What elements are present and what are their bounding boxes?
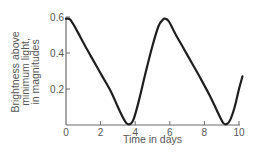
y-tick-label: 0.2 <box>50 84 64 95</box>
ticks: 02468100.20.40.6 <box>50 12 245 139</box>
y-axis-label-line: in magnitudes <box>29 39 41 104</box>
axes <box>66 17 240 125</box>
x-tick-label: 2 <box>98 127 104 138</box>
y-tick-label: 0.6 <box>50 12 64 23</box>
y-tick-label: 0.4 <box>50 48 64 59</box>
y-axis-label: Brightness aboveminimum light,in magnitu… <box>9 31 41 112</box>
x-axis-label: Time in days <box>123 133 182 145</box>
x-tick-label: 8 <box>202 127 208 138</box>
series-line-light-curve <box>66 19 242 125</box>
series-group <box>66 19 242 125</box>
x-tick-label: 10 <box>233 127 245 138</box>
light-curve-chart: 02468100.20.40.6 Time in days Brightness… <box>0 0 255 152</box>
x-tick-label: 0 <box>63 127 69 138</box>
